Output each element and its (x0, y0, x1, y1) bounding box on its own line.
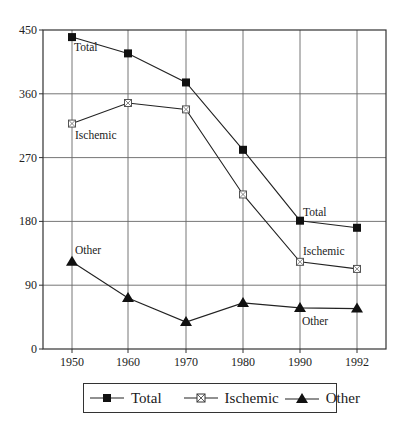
y-tick-label: 450 (19, 23, 37, 37)
grid-lines (43, 30, 386, 349)
x-tick-label: 1950 (60, 355, 84, 369)
filled-triangle-marker-icon (285, 392, 319, 404)
data-series (66, 33, 363, 326)
filled-triangle-marker-icon (122, 292, 134, 302)
crossed-square-marker-icon (69, 120, 76, 127)
filled-triangle-marker-icon (66, 256, 78, 266)
annotation-label: Other (302, 315, 328, 327)
annotation-label: Total (74, 41, 97, 53)
y-axis-ticks: 090180270360450 (19, 23, 43, 356)
legend-item-ischemic: Ischemic (184, 390, 279, 407)
y-tick-label: 270 (19, 151, 37, 165)
crossed-square-marker-icon (183, 106, 190, 113)
x-axis-ticks: 195019601970198019901992 (60, 349, 369, 369)
legend-item-total: Total (90, 390, 162, 407)
series-annotations: TotalIschemicOtherTotalIschemicOther (74, 41, 345, 327)
legend-label: Total (131, 390, 162, 407)
x-tick-label: 1970 (174, 355, 198, 369)
filled-square-marker-icon (239, 146, 247, 154)
y-tick-label: 180 (19, 214, 37, 228)
x-tick-label: 1992 (345, 355, 369, 369)
legend-label: Ischemic (225, 390, 279, 407)
y-tick-label: 0 (31, 342, 37, 356)
filled-square-marker-icon (182, 78, 190, 86)
annotation-label: Ischemic (303, 245, 345, 257)
plot-area-border (43, 30, 386, 349)
y-tick-label: 360 (19, 87, 37, 101)
filled-triangle-marker-icon (294, 302, 306, 312)
crossed-square-marker-icon (297, 258, 304, 265)
filled-square-marker-icon (353, 224, 361, 232)
filled-square-marker-icon (124, 49, 132, 57)
crossed-square-marker-icon (240, 191, 247, 198)
x-tick-label: 1980 (231, 355, 255, 369)
filled-triangle-marker-icon (237, 297, 249, 307)
y-tick-label: 90 (25, 278, 37, 292)
crossed-square-marker-icon (354, 265, 361, 272)
x-tick-label: 1960 (116, 355, 140, 369)
filled-square-marker-icon (296, 217, 304, 225)
crossed-square-marker-icon (125, 100, 132, 107)
annotation-label: Ischemic (75, 129, 117, 141)
filled-square-marker-icon (68, 33, 76, 41)
line-chart: 090180270360450 195019601970198019901992… (0, 0, 407, 380)
annotation-label: Total (303, 206, 326, 218)
legend-item-other: Other (285, 390, 360, 407)
x-tick-label: 1990 (288, 355, 312, 369)
legend-label: Other (326, 390, 360, 407)
annotation-label: Other (75, 244, 101, 256)
crossed-square-marker-icon (184, 392, 218, 404)
filled-triangle-marker-icon (351, 303, 363, 313)
filled-square-marker-icon (90, 392, 124, 404)
legend: Total Ischemic Other (83, 383, 337, 413)
